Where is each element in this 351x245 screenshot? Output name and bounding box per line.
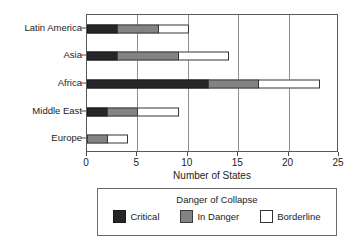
stacked-bar[interactable] bbox=[87, 135, 128, 144]
critical-swatch bbox=[113, 210, 126, 223]
bar-row bbox=[87, 15, 337, 43]
legend-title: Danger of Collapse bbox=[98, 194, 336, 205]
legend-item-label: Critical bbox=[130, 212, 159, 222]
bar-segment[interactable] bbox=[208, 79, 259, 88]
legend: Danger of Collapse CriticalIn DangerBord… bbox=[97, 188, 337, 236]
stacked-bar[interactable] bbox=[87, 107, 179, 116]
bar-segment[interactable] bbox=[117, 24, 158, 33]
x-tick-label: 15 bbox=[232, 157, 243, 168]
bar-segment[interactable] bbox=[117, 52, 178, 61]
x-tick-mark bbox=[237, 152, 238, 156]
legend-item[interactable]: Critical bbox=[113, 210, 159, 223]
y-tick-mark bbox=[81, 83, 86, 84]
x-tick-label: 25 bbox=[332, 157, 343, 168]
bar-segment[interactable] bbox=[158, 24, 189, 33]
bar-segment[interactable] bbox=[87, 107, 108, 116]
bar-row bbox=[87, 98, 337, 126]
legend-item[interactable]: In Danger bbox=[180, 210, 239, 223]
y-tick-label: Middle East bbox=[0, 106, 82, 116]
x-tick-mark bbox=[86, 152, 87, 156]
x-tick-label: 20 bbox=[282, 157, 293, 168]
bar-segment[interactable] bbox=[258, 79, 319, 88]
legend-item[interactable]: Borderline bbox=[260, 210, 320, 223]
legend-item-label: In Danger bbox=[197, 212, 239, 222]
legend-entries: CriticalIn DangerBorderline bbox=[98, 210, 336, 223]
stacked-bar-chart: Latin AmericaAsiaAfricaMiddle EastEurope… bbox=[0, 0, 351, 245]
bar-segment[interactable] bbox=[137, 107, 178, 116]
stacked-bar[interactable] bbox=[87, 52, 229, 61]
y-tick-label: Asia bbox=[0, 50, 82, 60]
bar-segment[interactable] bbox=[87, 52, 118, 61]
bar-segment[interactable] bbox=[87, 24, 118, 33]
bar-segment[interactable] bbox=[87, 135, 108, 144]
bar-row bbox=[87, 43, 337, 71]
x-tick-mark bbox=[288, 152, 289, 156]
bar-segment[interactable] bbox=[107, 135, 128, 144]
y-tick-label: Latin America bbox=[0, 23, 82, 33]
stacked-bar[interactable] bbox=[87, 24, 189, 33]
bar-segment[interactable] bbox=[87, 79, 209, 88]
in-danger-swatch bbox=[180, 210, 193, 223]
x-tick-label: 5 bbox=[134, 157, 140, 168]
bar-segment[interactable] bbox=[107, 107, 138, 116]
x-tick-mark bbox=[338, 152, 339, 156]
bar-segment[interactable] bbox=[178, 52, 229, 61]
borderline-swatch bbox=[260, 210, 273, 223]
stacked-bar[interactable] bbox=[87, 79, 320, 88]
y-tick-mark bbox=[81, 27, 86, 28]
x-axis-title: Number of States bbox=[86, 170, 338, 181]
x-tick-mark bbox=[136, 152, 137, 156]
x-tick-label: 10 bbox=[181, 157, 192, 168]
bar-row bbox=[87, 125, 337, 153]
x-tick-mark bbox=[187, 152, 188, 156]
plot-area bbox=[86, 14, 338, 152]
x-tick-label: 0 bbox=[83, 157, 89, 168]
y-tick-mark bbox=[81, 138, 86, 139]
y-tick-mark bbox=[81, 55, 86, 56]
legend-item-label: Borderline bbox=[277, 212, 320, 222]
y-tick-label: Africa bbox=[0, 78, 82, 88]
y-tick-label: Europe bbox=[0, 133, 82, 143]
bar-row bbox=[87, 70, 337, 98]
y-tick-mark bbox=[81, 110, 86, 111]
